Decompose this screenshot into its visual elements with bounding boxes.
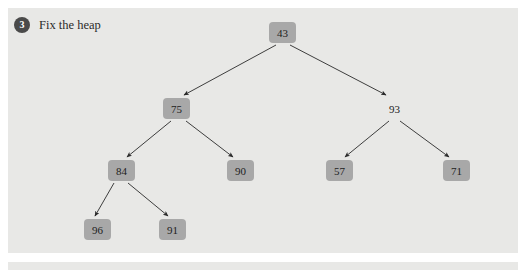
screenshot-root: 3 Fix the heap 437593849057719691 (0, 0, 528, 270)
heap-node-57: 57 (326, 160, 353, 181)
step-header: 3 Fix the heap (14, 17, 101, 33)
heap-node-96: 96 (84, 219, 111, 240)
heap-node-90: 90 (227, 160, 254, 181)
heap-node-75: 75 (163, 98, 190, 119)
heap-node-43: 43 (269, 22, 296, 43)
heap-node-71: 71 (443, 160, 470, 181)
step-panel (8, 8, 518, 253)
step-title: Fix the heap (39, 18, 101, 33)
heap-node-91: 91 (159, 219, 186, 240)
next-panel-edge (8, 262, 518, 270)
heap-node-84: 84 (108, 160, 135, 181)
step-number-badge: 3 (14, 17, 30, 33)
heap-node-93: 93 (381, 98, 408, 119)
